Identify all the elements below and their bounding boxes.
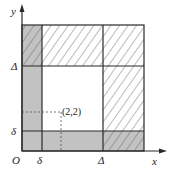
point-label: (2,2): [62, 106, 81, 118]
y-tick-delta-large: Δ: [10, 60, 17, 72]
x-axis-label: x: [151, 155, 157, 167]
y-axis-arrow-icon: [20, 4, 25, 12]
region-diagram: y x O δ Δ δ Δ (2,2): [0, 0, 175, 182]
top-hatch-region: [22, 25, 144, 66]
right-hatch-region: [103, 66, 144, 151]
x-tick-delta-large: Δ: [97, 154, 104, 166]
x-axis-arrow-icon: [159, 149, 167, 154]
y-tick-delta-small: δ: [11, 125, 17, 137]
origin-label: O: [12, 154, 20, 166]
x-tick-delta-small: δ: [37, 154, 43, 166]
y-axis-label: y: [10, 5, 16, 17]
